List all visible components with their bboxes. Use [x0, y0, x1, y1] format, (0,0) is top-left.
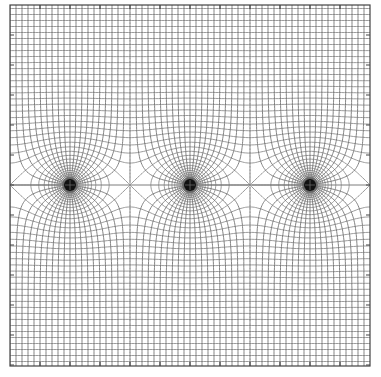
charge-2-icon [182, 177, 198, 193]
charge-3-icon [302, 177, 318, 193]
field-line-diagram: Field lines and equipotentials of a peri… [0, 0, 381, 377]
charge-1-icon [62, 177, 78, 193]
field-plot: Field lines and equipotentials of a peri… [0, 0, 381, 377]
